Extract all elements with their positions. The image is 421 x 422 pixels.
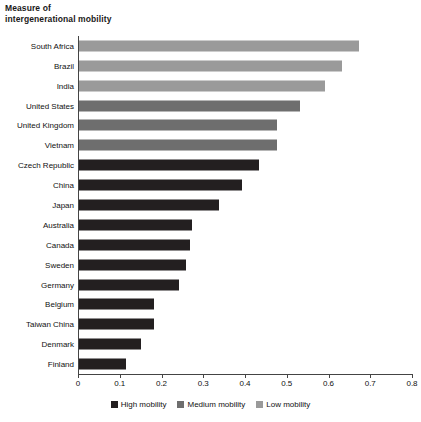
x-axis-tick-label: 0.8 [406,379,417,388]
legend-swatch-icon [177,401,184,408]
y-axis-label: Czech Republic [18,161,74,170]
bar-row: China [78,175,412,195]
bar-row: Belgium [78,294,412,314]
bar-row: Finland [78,354,412,374]
bar[interactable] [79,40,359,51]
x-axis-tick [78,374,79,378]
x-axis-tick-label: 0.4 [239,379,250,388]
y-axis-label: China [53,181,74,190]
bar[interactable] [79,120,277,131]
bar[interactable] [79,259,186,270]
plot-area: South AfricaBrazilIndiaUnited StatesUnit… [78,36,412,374]
chart-container: Measure of intergenerational mobility So… [0,0,421,422]
y-axis-label: Vietnam [45,141,74,150]
legend-item-low[interactable]: Low mobility [256,400,310,409]
bar[interactable] [79,80,325,91]
x-axis-tick-label: 0.3 [198,379,209,388]
x-axis-tick-label: 0.2 [156,379,167,388]
bar[interactable] [79,180,242,191]
y-axis-label: Canada [46,240,74,249]
y-axis-label: Taiwan China [26,320,74,329]
bar-row: Brazil [78,56,412,76]
bar[interactable] [79,60,342,71]
bar-row: South Africa [78,36,412,56]
bar[interactable] [79,219,192,230]
x-axis-tick-label: 0 [76,379,80,388]
legend-label: High mobility [121,400,167,409]
y-axis-label: South Africa [31,41,74,50]
bar[interactable] [79,319,154,330]
bar[interactable] [79,279,179,290]
y-axis-label: Germany [41,280,74,289]
bar-row: Australia [78,215,412,235]
x-axis-tick [120,374,121,378]
x-axis-tick [370,374,371,378]
bar[interactable] [79,140,277,151]
legend-swatch-icon [256,401,263,408]
y-axis-label: Finland [48,360,74,369]
x-axis-tick [329,374,330,378]
bar-row: United Kingdom [78,116,412,136]
x-axis-tick-label: 0.5 [281,379,292,388]
x-axis-tick-label: 0.7 [365,379,376,388]
chart-legend: High mobilityMedium mobilityLow mobility [0,400,421,409]
bar-row: Vietnam [78,135,412,155]
y-axis-label: India [57,81,74,90]
chart-title: Measure of intergenerational mobility [5,3,112,25]
legend-item-high[interactable]: High mobility [111,400,167,409]
y-axis-label: Sweden [45,260,74,269]
bar-row: Germany [78,275,412,295]
x-axis-tick [412,374,413,378]
y-axis-label: Brazil [54,61,74,70]
x-axis-tick [287,374,288,378]
bar[interactable] [79,299,154,310]
x-axis-tick [245,374,246,378]
bar[interactable] [79,199,219,210]
legend-swatch-icon [111,401,118,408]
legend-label: Medium mobility [187,400,245,409]
y-axis-label: United Kingdom [17,121,74,130]
x-axis-tick [162,374,163,378]
legend-item-medium[interactable]: Medium mobility [177,400,245,409]
bar-row: Japan [78,195,412,215]
bar[interactable] [79,100,300,111]
bar[interactable] [79,239,190,250]
bar[interactable] [79,359,126,370]
bar-row: India [78,76,412,96]
bar-row: Canada [78,235,412,255]
x-axis-tick-label: 0.6 [323,379,334,388]
bar[interactable] [79,339,141,350]
x-axis-tick-label: 0.1 [114,379,125,388]
bar[interactable] [79,160,259,171]
bar-row: Denmark [78,334,412,354]
bar-row: Czech Republic [78,155,412,175]
y-axis-label: Belgium [45,300,74,309]
y-axis-label: Australia [43,220,74,229]
y-axis-label: Japan [52,200,74,209]
bar-row: Taiwan China [78,314,412,334]
bar-row: Sweden [78,255,412,275]
y-axis-label: Denmark [42,340,74,349]
legend-label: Low mobility [266,400,310,409]
bar-row: United States [78,96,412,116]
x-axis-tick [203,374,204,378]
y-axis-label: United States [26,101,74,110]
